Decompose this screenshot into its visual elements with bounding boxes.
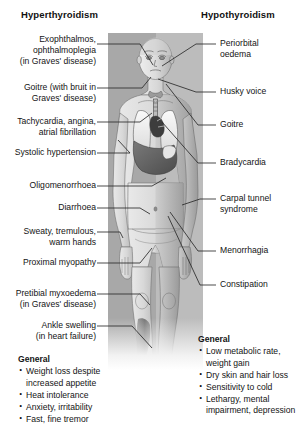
list-item: Lethargy, mental impairment, depression bbox=[198, 394, 306, 417]
label-bradycardia: Bradycardia bbox=[220, 157, 306, 168]
label-goitre: Goitre bbox=[220, 119, 306, 130]
label-exophthalmos: Exophthalmos, ophthalmoplegia (in Graves… bbox=[2, 34, 96, 68]
general-left-list: Weight loss despite increased appetite H… bbox=[18, 366, 138, 425]
label-periorbital-oedema: Periorbital oedema bbox=[220, 38, 306, 60]
label-sweaty-warm-hands: Sweaty, tremulous, warm hands bbox=[2, 226, 96, 248]
list-item: Heat intolerance bbox=[18, 390, 138, 401]
label-goitre-with-bruit: Goitre (with bruit in Graves' disease) bbox=[2, 82, 96, 104]
label-diarrhoea: Diarrhoea bbox=[2, 202, 96, 213]
list-item: Anxiety, irritability bbox=[18, 402, 138, 413]
list-item: Fast, fine tremor bbox=[18, 414, 138, 425]
general-left-title: General bbox=[18, 354, 138, 365]
label-tachycardia: Tachycardia, angina, atrial fibrillation bbox=[2, 116, 96, 138]
label-oligomenorrhoea: Oligomenorrhoea bbox=[2, 180, 96, 191]
thyroid-signs-figure: Hyperthyroidism Hypothyroidism bbox=[0, 0, 307, 439]
label-ankle-swelling: Ankle swelling (in heart failure) bbox=[2, 320, 96, 342]
label-systolic-hypertension: Systolic hypertension bbox=[2, 147, 96, 158]
label-menorrhagia: Menorrhagia bbox=[220, 245, 306, 256]
general-right-list: Low metabolic rate, weight gain Dry skin… bbox=[198, 346, 306, 416]
label-proximal-myopathy: Proximal myopathy bbox=[2, 257, 96, 268]
label-husky-voice: Husky voice bbox=[220, 86, 306, 97]
list-item: Low metabolic rate, weight gain bbox=[198, 346, 306, 369]
list-item: Dry skin and hair loss bbox=[198, 370, 306, 381]
general-hypothyroidism-block: General Low metabolic rate, weight gain … bbox=[198, 334, 306, 417]
general-hyperthyroidism-block: General Weight loss despite increased ap… bbox=[18, 354, 138, 425]
header-hyperthyroidism: Hyperthyroidism bbox=[21, 9, 98, 20]
header-hypothyroidism: Hypothyroidism bbox=[201, 9, 275, 20]
list-item: Sensitivity to cold bbox=[198, 382, 306, 393]
label-constipation: Constipation bbox=[220, 279, 306, 290]
body-illustration-panel bbox=[108, 33, 203, 370]
label-carpal-tunnel-syndrome: Carpal tunnel syndrome bbox=[220, 193, 306, 215]
list-item: Weight loss despite increased appetite bbox=[18, 366, 138, 389]
label-pretibial-myxoedema: Pretibial myxoedema (in Graves' disease) bbox=[2, 288, 96, 310]
general-right-title: General bbox=[198, 334, 306, 345]
